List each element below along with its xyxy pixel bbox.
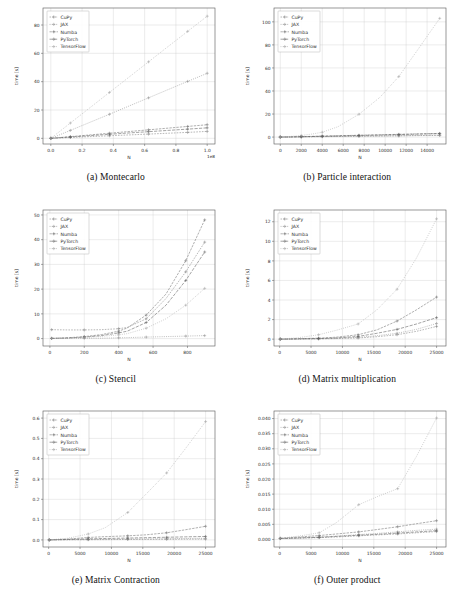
x-tick-label: 600 [149, 349, 158, 354]
plus-marker-icon [396, 526, 399, 529]
panel-caption-contraction: (e) Matrix Contraction [72, 575, 160, 585]
x-tick-label: 20000 [398, 551, 412, 556]
plus-marker-icon [321, 131, 324, 134]
y-axis-label: time [s] [14, 470, 19, 488]
legend-label: Numba [60, 231, 77, 236]
legend-label: TensorFlow [59, 44, 86, 49]
x-tick-label: 25000 [430, 551, 444, 556]
plus-marker-icon [205, 15, 208, 18]
y-tick-label: 0.030 [258, 447, 271, 452]
panel-caption-matmul: (d) Matrix multiplication [299, 374, 396, 384]
y-tick-label: 30 [34, 262, 40, 267]
x-tick-label: 0.6 [141, 148, 148, 153]
plus-marker-icon [186, 80, 189, 83]
x-tick-label: 8000 [359, 148, 370, 153]
y-tick-label: 0 [36, 336, 39, 341]
legend-label: JAX [291, 224, 300, 229]
x-tick-label: 0 [279, 349, 282, 354]
plus-marker-icon [203, 240, 206, 243]
plus-marker-icon [321, 135, 324, 138]
y-tick-label: 100 [262, 20, 271, 25]
plus-marker-icon [69, 135, 72, 138]
y-tick-label: 60 [265, 66, 271, 71]
plus-marker-icon [144, 335, 147, 338]
plus-marker-icon [50, 328, 53, 331]
y-axis-label: time [s] [245, 470, 250, 488]
y-tick-label: 8 [268, 258, 271, 263]
plus-marker-icon [86, 533, 89, 536]
legend-label: TensorFlow [291, 246, 318, 251]
chart-stencil: 020040060080001020304050Ntime [s]CuPyJAX… [9, 202, 223, 372]
chart-matmul: 0500010000150002000025000024681012Ntime … [240, 202, 454, 372]
plus-marker-icon [318, 532, 321, 535]
x-tick-label: 800 [183, 349, 192, 354]
chart-montecarlo: 0.00.20.40.60.81.00204060801e8Ntime [s]C… [9, 0, 223, 170]
plus-marker-icon [184, 270, 187, 273]
x-tick-label: 20000 [167, 551, 181, 556]
plot-area-stencil: 020040060080001020304050Ntime [s]CuPyJAX… [9, 202, 223, 372]
y-tick-label: 0.010 [258, 507, 271, 512]
y-tick-label: 50 [34, 212, 40, 217]
legend-label: JAX [291, 425, 300, 430]
figure-panel-outer: 05000100001500020000250000.0000.0050.010… [232, 403, 463, 605]
y-tick-label: 60 [34, 51, 40, 56]
y-tick-label: 0.2 [32, 497, 39, 502]
legend-label: JAX [59, 22, 68, 27]
x-axis-label: N [127, 357, 130, 362]
panel-caption-particle: (b) Particle interaction [303, 172, 391, 182]
plot-area-particle: 0200040006000800010000120001400002040608… [240, 0, 454, 170]
plus-marker-icon [50, 337, 53, 340]
chart-outer: 05000100001500020000250000.0000.0050.010… [240, 403, 454, 573]
x-tick-label: 4000 [317, 148, 328, 153]
y-tick-label: 40 [34, 237, 40, 242]
plus-marker-icon [203, 250, 206, 253]
series-line-jax [51, 73, 207, 138]
legend-label: CuPy [292, 418, 304, 423]
legend-label: Numba [60, 30, 77, 35]
plus-marker-icon [49, 137, 52, 140]
series-line-cupy [51, 131, 207, 138]
x-tick-label: 15000 [367, 551, 381, 556]
plus-marker-icon [144, 321, 147, 324]
y-axis-label: time [s] [14, 269, 19, 287]
plus-marker-icon [205, 123, 208, 126]
legend-label: PyTorch [292, 440, 310, 445]
x-tick-label: 5000 [74, 551, 85, 556]
x-tick-label: 6000 [338, 148, 349, 153]
plus-marker-icon [435, 417, 438, 420]
y-tick-label: 40 [265, 89, 271, 94]
legend-label: CuPy [60, 216, 72, 221]
plus-marker-icon [435, 217, 438, 220]
chart-contraction: 05000100001500020000250000.00.10.20.30.4… [9, 403, 223, 573]
plus-marker-icon [165, 536, 168, 539]
plus-marker-icon [186, 131, 189, 134]
plus-marker-icon [317, 337, 320, 340]
plus-marker-icon [184, 259, 187, 262]
plus-marker-icon [357, 322, 360, 325]
x-tick-label: 1.0 [203, 148, 210, 153]
y-tick-label: 4 [268, 297, 271, 302]
y-tick-label: 0.035 [258, 432, 271, 437]
legend-label: TensorFlow [59, 246, 86, 251]
figure-panel-grid: 0.00.20.40.60.81.00204060801e8Ntime [s]C… [0, 0, 463, 605]
plus-marker-icon [357, 531, 360, 534]
x-tick-label: 15000 [367, 349, 381, 354]
x-tick-label: 20000 [398, 349, 412, 354]
x-tick-label: 0 [47, 551, 50, 556]
panel-caption-outer: (f) Outer product [314, 575, 381, 585]
plus-marker-icon [147, 96, 150, 99]
plus-marker-icon [83, 328, 86, 331]
y-tick-label: 10 [34, 311, 40, 316]
y-tick-label: 20 [34, 286, 40, 291]
x-tick-label: 10000 [336, 551, 350, 556]
y-tick-label: 40 [34, 79, 40, 84]
legend-label: PyTorch [292, 37, 310, 42]
plus-marker-icon [435, 295, 438, 298]
x-tick-label: 25000 [430, 349, 444, 354]
x-tick-label: 0.8 [172, 148, 179, 153]
plus-marker-icon [279, 136, 282, 139]
y-tick-label: 0.025 [258, 462, 271, 467]
x-tick-label: 14000 [420, 148, 434, 153]
x-axis-offset-label: 1e8 [207, 154, 215, 159]
plus-marker-icon [108, 113, 111, 116]
